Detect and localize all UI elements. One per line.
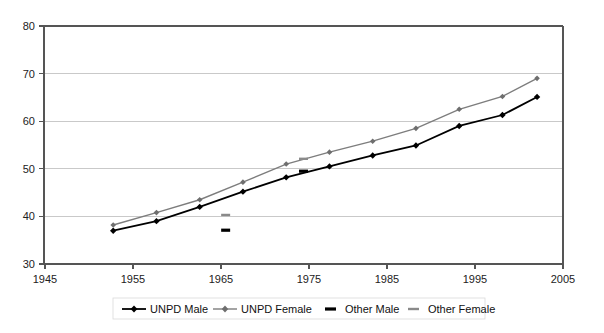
legend-label-unpd-male: UNPD Male: [150, 303, 208, 315]
y-axis-tick-labels: 30 40 50 60 70 80: [23, 20, 35, 270]
y-tick-label-50: 50: [23, 163, 35, 175]
chart-legend: UNPD Male UNPD Female Other Male Other F…: [113, 298, 495, 319]
x-tick-label-1975: 1975: [297, 273, 321, 285]
chart-svg: 30 40 50 60 70 80 1945 1955 1965 1975 19…: [0, 0, 604, 333]
x-tick-label-2005: 2005: [551, 273, 575, 285]
x-axis-tick-labels: 1945 1955 1965 1975 1985 1995 2005: [33, 273, 575, 285]
x-tick-label-1995: 1995: [463, 273, 487, 285]
x-tick-label-1965: 1965: [209, 273, 233, 285]
legend-label-other-male: Other Male: [345, 303, 399, 315]
y-tick-label-80: 80: [23, 20, 35, 32]
y-tick-label-70: 70: [23, 68, 35, 80]
legend-label-other-female: Other Female: [428, 303, 495, 315]
x-tick-label-1945: 1945: [33, 273, 57, 285]
y-tick-label-30: 30: [23, 258, 35, 270]
life-expectancy-line-chart: 30 40 50 60 70 80 1945 1955 1965 1975 19…: [0, 0, 604, 333]
y-tick-label-60: 60: [23, 115, 35, 127]
y-tick-label-40: 40: [23, 210, 35, 222]
x-tick-label-1955: 1955: [121, 273, 145, 285]
legend-label-unpd-female: UNPD Female: [241, 303, 312, 315]
x-tick-label-1985: 1985: [375, 273, 399, 285]
